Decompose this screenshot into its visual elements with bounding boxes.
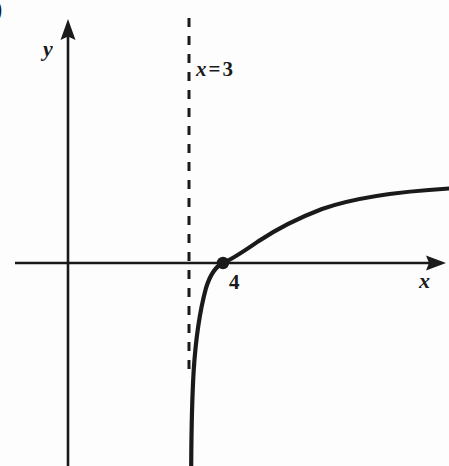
asymptote-equation-label: x=3 xyxy=(196,59,233,80)
asymptote-variable: x xyxy=(196,57,207,81)
asymptote-equals-sign: = xyxy=(207,57,223,81)
math-figure-logarithmic-graph: ) y x x=3 4 xyxy=(0,0,449,466)
y-axis-label: y xyxy=(43,38,53,60)
x-intercept-label: 4 xyxy=(229,272,240,293)
x-axis-label: x xyxy=(419,270,430,292)
x-intercept-dot xyxy=(217,257,229,269)
asymptote-value: 3 xyxy=(222,57,233,81)
log-curve xyxy=(191,189,449,466)
